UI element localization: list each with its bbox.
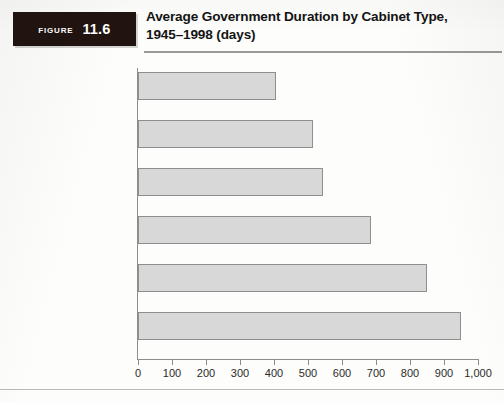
x-tick-label: 1,000 <box>464 367 492 379</box>
figure-header: Figure 11.6 Average Government Duration … <box>0 0 504 58</box>
x-tick-mark <box>478 360 479 365</box>
bar <box>138 120 313 148</box>
page-bottom-rule <box>0 389 504 390</box>
figure-badge-number: 11.6 <box>82 21 110 37</box>
x-tick-label: 100 <box>163 367 181 379</box>
x-tick-mark <box>342 360 343 365</box>
x-tick-label: 300 <box>231 367 249 379</box>
x-tick-label: 600 <box>333 367 351 379</box>
bar-chart: 01002003004005006007008009001,000 Minori… <box>0 58 504 403</box>
bar <box>138 216 371 244</box>
bar <box>138 168 323 196</box>
x-tick-label: 500 <box>299 367 317 379</box>
x-tick-mark <box>240 360 241 365</box>
x-tick-mark <box>172 360 173 365</box>
x-tick-label: 0 <box>135 367 141 379</box>
x-tick-label: 800 <box>401 367 419 379</box>
x-tick-mark <box>274 360 275 365</box>
x-tick-mark <box>308 360 309 365</box>
x-tick-label: 200 <box>197 367 215 379</box>
figure-title-line2: 1945–1998 (days) <box>146 26 494 44</box>
figure-badge-word: Figure <box>38 23 73 35</box>
x-tick-mark <box>138 360 139 365</box>
x-tick-mark <box>206 360 207 365</box>
figure-page: Figure 11.6 Average Government Duration … <box>0 0 504 403</box>
bar <box>138 312 461 340</box>
x-tick-label: 900 <box>435 367 453 379</box>
figure-title: Average Government Duration by Cabinet T… <box>146 8 494 43</box>
x-tick-mark <box>444 360 445 365</box>
x-tick-label: 700 <box>367 367 385 379</box>
x-tick-mark <box>410 360 411 365</box>
bar <box>138 72 276 100</box>
figure-number-badge: Figure 11.6 <box>13 12 136 46</box>
x-tick-label: 400 <box>265 367 283 379</box>
header-divider <box>144 51 502 53</box>
figure-title-line1: Average Government Duration by Cabinet T… <box>146 9 448 24</box>
x-tick-mark <box>376 360 377 365</box>
bar <box>138 264 427 292</box>
